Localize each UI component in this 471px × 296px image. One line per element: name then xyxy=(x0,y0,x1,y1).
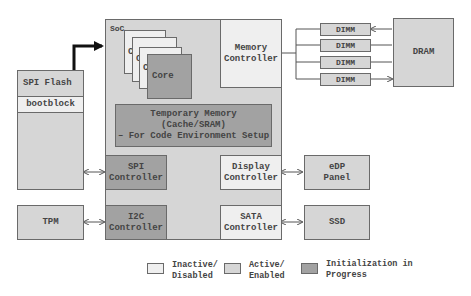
i2c-controller: I2C Controller xyxy=(105,205,167,240)
legend-label-active: Active/ Enabled xyxy=(249,260,285,282)
dimm-2: DIMM xyxy=(320,39,371,52)
legend-label-progress: Initialization in Progress xyxy=(326,259,413,281)
legend-swatch-active xyxy=(224,263,241,274)
soc-label: SoC xyxy=(110,23,124,34)
spi-flash-label: SPI Flash xyxy=(23,78,72,89)
core-front: Core xyxy=(147,54,192,99)
temporary-memory: Temporary Memory (Cache/SRAM) – For Code… xyxy=(115,104,272,147)
edp-panel: eDP Panel xyxy=(304,155,370,190)
legend-swatch-inactive xyxy=(147,263,164,274)
ssd: SSD xyxy=(304,205,370,240)
legend-label-inactive: Inactive/ Disabled xyxy=(172,260,218,282)
dimm-3: DIMM xyxy=(320,56,371,69)
legend-swatch-progress xyxy=(301,263,318,274)
sata-controller: SATA Controller xyxy=(220,205,282,240)
dimm-1: DIMM xyxy=(320,23,371,36)
dram: DRAM xyxy=(393,18,454,87)
display-controller: Display Controller xyxy=(220,155,282,190)
tpm: TPM xyxy=(17,205,84,240)
spi-flash: SPI Flash xyxy=(17,70,84,190)
bootblock: bootblock xyxy=(17,96,84,113)
spi-controller: SPI Controller xyxy=(105,155,167,190)
dimm-4: DIMM xyxy=(320,73,371,86)
memory-controller: Memory Controller xyxy=(220,19,282,88)
